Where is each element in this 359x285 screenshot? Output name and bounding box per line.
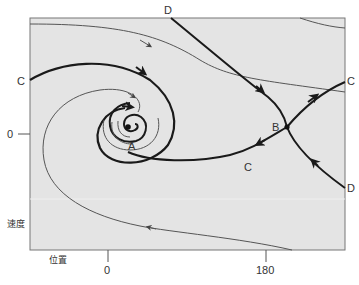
y-axis-label: 速度 [7, 220, 25, 229]
point-b-dot [284, 124, 289, 129]
label-d-top: D [164, 5, 172, 16]
label-c-right: C [347, 76, 355, 87]
y-tick-label-0: 0 [7, 129, 13, 140]
label-point-a: A [128, 141, 135, 152]
x-axis-label: 位置 [49, 256, 67, 265]
label-c-left: C [17, 76, 25, 87]
x-tick-label-180: 180 [256, 265, 274, 276]
phase-portrait-figure: C D C D C B A 0 0 180 速度 位置 [0, 0, 359, 285]
x-tick-label-0: 0 [104, 265, 110, 276]
label-c-bottom: C [244, 162, 252, 173]
point-a-dot [125, 124, 131, 130]
label-point-b: B [272, 122, 279, 133]
phase-portrait-plot [0, 0, 359, 285]
label-d-right: D [347, 183, 355, 194]
